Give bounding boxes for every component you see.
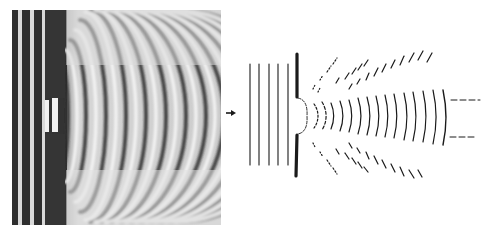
wavefront-schematic	[250, 51, 480, 178]
incident-wavefronts	[250, 64, 288, 165]
upper-side-lobe	[313, 51, 432, 92]
barrier	[296, 54, 297, 176]
slit-wavefront	[298, 98, 307, 134]
lower-side-lobe	[313, 143, 422, 178]
arrow-icon	[226, 110, 236, 116]
beam-edge-lines	[450, 100, 480, 137]
diffraction-figure	[0, 0, 490, 236]
central-lobe-arcs	[314, 90, 446, 145]
